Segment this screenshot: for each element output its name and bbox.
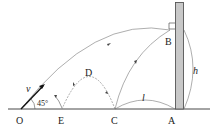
label-o: O xyxy=(16,115,23,126)
arrow-icon xyxy=(73,82,75,86)
height-arc xyxy=(184,30,193,109)
angle-arc xyxy=(31,99,35,109)
label-d: D xyxy=(85,67,92,78)
label-l: l xyxy=(142,92,145,103)
label-h: h xyxy=(193,65,198,76)
label-angle: 45° xyxy=(37,99,48,108)
wall xyxy=(176,3,184,110)
label-b: B xyxy=(165,36,172,47)
right-angle-marker xyxy=(169,23,175,29)
trajectory-o-to-b xyxy=(21,28,170,109)
arrow-icon xyxy=(105,91,108,94)
projectile-diagram: O E C A B D v 45° l h xyxy=(0,0,218,139)
label-a: A xyxy=(168,115,176,126)
arrow-icon xyxy=(107,43,111,46)
distance-arc xyxy=(115,100,175,109)
label-e: E xyxy=(58,115,64,126)
label-v: v xyxy=(26,83,31,94)
label-c: C xyxy=(111,115,118,126)
